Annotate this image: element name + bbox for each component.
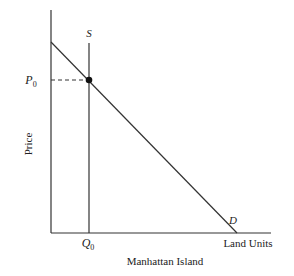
supply-label: S [86,27,92,39]
diagram-title: Manhattan Island [127,255,204,267]
price-label: P0 [24,73,36,89]
x-axis-label: Land Units [223,237,272,249]
quantity-label: Q0 [82,236,95,252]
equilibrium-point [86,77,93,84]
y-axis-label: Price [22,133,34,156]
demand-curve [51,42,237,233]
demand-label: D [228,214,237,226]
supply-demand-diagram: S D P0 Q0 Land Units Manhattan Island Pr… [0,0,294,276]
